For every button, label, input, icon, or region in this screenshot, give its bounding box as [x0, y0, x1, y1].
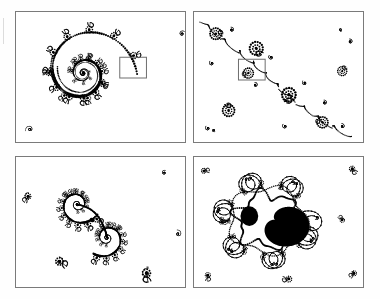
fractal-panel-1 [15, 11, 186, 143]
panel-1-canvas [16, 12, 185, 142]
panel-3-canvas [16, 157, 185, 287]
fractal-panel-3 [15, 156, 186, 288]
panel-4-canvas [194, 157, 363, 287]
figure-root [0, 0, 380, 299]
fractal-panel-2 [193, 11, 364, 143]
scan-artifact [3, 18, 4, 44]
fractal-panel-4 [193, 156, 364, 288]
panel-2-canvas [194, 12, 363, 142]
